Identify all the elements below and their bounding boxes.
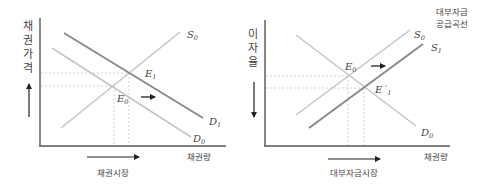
market-label: 채권시장 <box>97 168 129 178</box>
y-axis-label-char: 권 <box>23 34 33 47</box>
supply-curve-s1 <box>309 44 423 128</box>
x-axis-label: 채권량 <box>187 152 211 162</box>
label-d0: D0 <box>192 133 205 146</box>
label-d1: D1 <box>208 116 221 129</box>
label-s1: S1 <box>431 42 442 55</box>
diagram-canvas: 채 권 가 격 S0 E1 E0 D1 D0 채권량 채권시장 <box>0 0 479 187</box>
equilibrium-guides <box>266 76 364 145</box>
market-label: 대부자금시장 <box>330 168 378 178</box>
supply-curve-note-line2: 공급곡선 <box>436 19 468 29</box>
demand-curve-d0 <box>296 35 416 126</box>
y-axis-label-char: 이 <box>248 28 258 41</box>
loanable-funds-chart: 이 자 율 대부자금 공급곡선 S0 S1 E0 E´1 D0 채권량 <box>248 7 468 178</box>
y-axis-label-char: 가 <box>23 48 33 61</box>
label-s0: S0 <box>187 29 198 42</box>
y-axis-label-char: 자 <box>248 42 258 55</box>
y-axis-label-char: 격 <box>23 62 33 75</box>
y-axis-label-char: 채 <box>23 20 33 33</box>
label-e1: E1 <box>144 68 156 81</box>
bond-market-chart: 채 권 가 격 S0 E1 E0 D1 D0 채권량 채권시장 <box>23 18 226 178</box>
x-axis-label: 채권량 <box>424 152 448 162</box>
label-d0: D0 <box>420 127 433 140</box>
label-e1-prime: E´1 <box>374 84 391 97</box>
supply-curve-note-line1: 대부자금 <box>436 7 468 17</box>
supply-curve-s0 <box>61 32 180 128</box>
label-s0: S0 <box>414 29 425 42</box>
demand-curve-d1 <box>64 33 203 118</box>
y-axis-label-char: 율 <box>248 56 258 69</box>
